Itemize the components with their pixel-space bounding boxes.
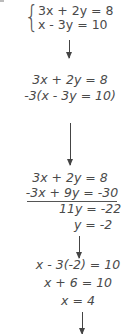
system-equation-2: x - 3y = 10 (38, 18, 108, 32)
step3-line2: x + 6 = 10 (44, 276, 112, 290)
step3-result: x = 4 (61, 294, 95, 308)
down-arrow-icon (69, 40, 70, 58)
down-arrow-icon (79, 236, 80, 258)
step1-line1: 3x + 2y = 8 (32, 73, 108, 87)
step1-line2: -3(x - 3y = 10) (24, 89, 116, 103)
step2-result: y = -2 (74, 218, 112, 232)
corner-mark (0, 0, 4, 2)
down-arrow-icon (82, 312, 83, 334)
step3-line1: x - 3(-2) = 10 (36, 258, 120, 272)
step2-line1: 3x + 2y = 8 (32, 171, 108, 185)
system-brace: { (24, 2, 38, 32)
step2-line2: -3x + 9y = -30 (26, 186, 118, 200)
system-equation-1: 3x + 2y = 8 (38, 4, 114, 18)
step2-sum: 11y = -22 (59, 202, 121, 216)
down-arrow-icon (70, 123, 71, 165)
